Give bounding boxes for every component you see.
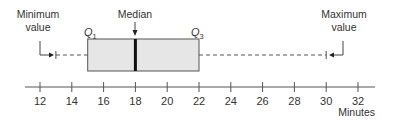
- maximum-label-line2: value: [331, 21, 356, 33]
- q3-label-sub: 3: [200, 32, 204, 41]
- x-axis-tick-label: 12: [34, 95, 46, 107]
- x-axis-tick-label: 30: [320, 95, 332, 107]
- x-axis-tick-label: 14: [66, 95, 78, 107]
- x-axis-tick-label: 18: [129, 95, 141, 107]
- x-axis-tick-label: 20: [161, 95, 173, 107]
- x-axis-tick-label: 26: [256, 95, 268, 107]
- minimum-label-line2: value: [25, 21, 50, 33]
- minimum-arrowhead-icon: [49, 53, 54, 58]
- box-plot-diagram: 1214161820222426283032 Minimum value Med…: [0, 0, 394, 124]
- median-arrowhead-icon: [133, 30, 138, 36]
- x-axis-tick-labels: 1214161820222426283032: [34, 95, 364, 107]
- minimum-label-line1: Minimum: [17, 8, 60, 20]
- box-plot-svg: 1214161820222426283032 Minimum value Med…: [0, 0, 394, 124]
- iqr-box: [88, 39, 199, 71]
- maximum-arrow-icon: [333, 41, 343, 55]
- maximum-label-line1: Maximum: [321, 8, 367, 20]
- minimum-arrow-icon: [40, 41, 50, 55]
- median-label: Median: [118, 8, 153, 20]
- x-axis-tick-label: 16: [97, 95, 109, 107]
- x-axis-tick-label: 28: [288, 95, 300, 107]
- x-axis-tick-label: 22: [193, 95, 205, 107]
- x-axis-unit-label: Minutes: [338, 106, 375, 118]
- x-axis-tick-label: 24: [225, 95, 237, 107]
- q1-label-sub: 1: [93, 32, 97, 41]
- maximum-arrowhead-icon: [329, 53, 334, 58]
